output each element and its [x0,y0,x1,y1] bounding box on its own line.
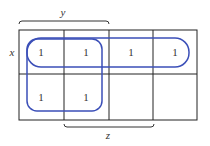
z-label: z [105,129,111,141]
cell-0-0: 1 [38,46,44,58]
cell-0-3: 1 [172,46,178,58]
x-label: x [9,46,15,58]
cell-0-2: 1 [128,46,134,58]
kmap-grid [19,30,197,120]
karnaugh-map: y x 1 1 1 1 1 1 z [0,0,210,146]
y-bracket [19,21,109,24]
y-label: y [60,6,66,18]
cell-0-1: 1 [83,46,89,58]
cell-1-1: 1 [83,91,89,103]
group-x-loop [27,38,189,67]
cell-1-0: 1 [38,91,44,103]
z-bracket [64,124,154,127]
